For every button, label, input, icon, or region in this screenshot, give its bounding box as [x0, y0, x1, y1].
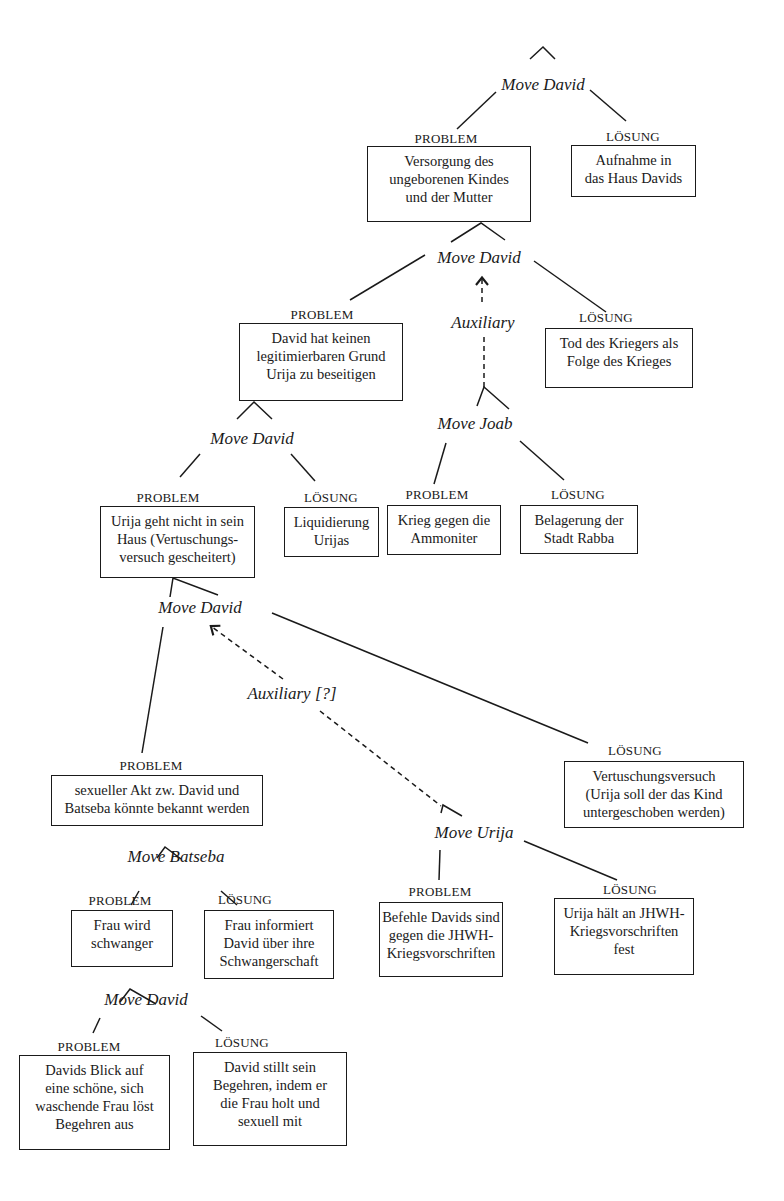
- problem-box-4: sexueller Akt zw. David und Batseba könn…: [51, 775, 263, 826]
- auxiliary-label-1: Auxiliary: [451, 313, 514, 333]
- move-david-3: Move David: [210, 429, 294, 449]
- move-joab: Move Joab: [437, 414, 512, 434]
- problem-1-line: Versorgung des: [368, 152, 530, 170]
- solution-4-line: (Urija soll der das Kind: [565, 785, 743, 803]
- move-david-5: Move David: [104, 990, 188, 1010]
- problem-label-4: PROBLEM: [120, 758, 183, 774]
- solution-batseba-line: Frau informiert: [205, 916, 333, 934]
- problem-5-line: waschende Frau löst: [20, 1097, 169, 1115]
- solution-box-4: Vertuschungsversuch (Urija soll der das …: [564, 761, 744, 828]
- solution-5-line: Begehren, indem er: [194, 1076, 346, 1094]
- move-batseba: Move Batseba: [128, 847, 225, 867]
- problem-label-urija: PROBLEM: [409, 884, 472, 900]
- problem-urija-line: Kriegsvorschriften: [380, 944, 502, 962]
- solution-box-urija: Urija hält an JHWH- Kriegsvorschriften f…: [554, 898, 694, 975]
- problem-urija-line: gegen die JHWH-: [380, 926, 502, 944]
- problem-batseba-line: Frau wird: [72, 916, 172, 934]
- solution-1-line: Aufnahme in: [572, 151, 695, 169]
- problem-label-joab: PROBLEM: [406, 487, 469, 503]
- solution-box-5: David stillt sein Begehren, indem er die…: [193, 1052, 347, 1146]
- solution-urija-line: fest: [555, 940, 693, 958]
- problem-box-5: Davids Blick auf eine schöne, sich wasch…: [19, 1055, 170, 1150]
- problem-3-line: Haus (Vertuschungs-: [101, 530, 254, 548]
- problem-2-line: legitimierbaren Grund: [240, 347, 402, 365]
- solution-4-line: untergeschoben werden): [565, 803, 743, 821]
- solution-5-line: die Frau holt und: [194, 1094, 346, 1112]
- problem-label-1: PROBLEM: [415, 131, 478, 147]
- solution-urija-line: Urija hält an JHWH-: [555, 904, 693, 922]
- move-david-root: Move David: [501, 75, 585, 95]
- problem-box-1: Versorgung des ungeborenen Kindes und de…: [367, 146, 531, 222]
- solution-5-line: sexuell mit: [194, 1112, 346, 1130]
- solution-label-5: LÖSUNG: [215, 1035, 269, 1051]
- solution-label-3: LÖSUNG: [304, 490, 358, 506]
- auxiliary-label-2: Auxiliary [?]: [247, 684, 336, 704]
- solution-joab-line: Stadt Rabba: [521, 529, 637, 547]
- solution-label-1: LÖSUNG: [606, 129, 660, 145]
- solution-label-batseba: LÖSUNG: [218, 892, 272, 908]
- solution-label-urija: LÖSUNG: [603, 882, 657, 898]
- solution-batseba-line: Schwangerschaft: [205, 952, 333, 970]
- problem-5-line: Begehren aus: [20, 1115, 169, 1133]
- problem-3-line: Urija geht nicht in sein: [101, 512, 254, 530]
- solution-box-batseba: Frau informiert David über ihre Schwange…: [204, 910, 334, 979]
- solution-3-line: Urijas: [285, 531, 378, 549]
- problem-urija-line: Befehle Davids sind: [380, 908, 502, 926]
- solution-5-line: David stillt sein: [194, 1058, 346, 1076]
- solution-label-joab: LÖSUNG: [551, 487, 605, 503]
- problem-2-line: David hat keinen: [240, 329, 402, 347]
- solution-2-line: Tod des Kriegers als: [546, 334, 692, 352]
- problem-5-line: Davids Blick auf: [20, 1061, 169, 1079]
- solution-4-line: Vertuschungsversuch: [565, 767, 743, 785]
- solution-3-line: Liquidierung: [285, 513, 378, 531]
- problem-label-5: PROBLEM: [58, 1039, 121, 1055]
- solution-batseba-line: David über ihre: [205, 934, 333, 952]
- problem-box-batseba: Frau wird schwanger: [71, 910, 173, 967]
- problem-4-line: Batseba könnte bekannt werden: [52, 799, 262, 817]
- problem-box-3: Urija geht nicht in sein Haus (Vertuschu…: [100, 506, 255, 578]
- solution-urija-line: Kriegsvorschriften: [555, 922, 693, 940]
- problem-joab-line: Krieg gegen die: [388, 511, 500, 529]
- problem-label-batseba: PROBLEM: [89, 893, 152, 909]
- problem-3-line: versuch gescheitert): [101, 548, 254, 566]
- problem-5-line: eine schöne, sich: [20, 1079, 169, 1097]
- solution-box-1: Aufnahme in das Haus Davids: [571, 145, 696, 197]
- solution-label-4: LÖSUNG: [608, 743, 662, 759]
- problem-4-line: sexueller Akt zw. David und: [52, 781, 262, 799]
- problem-box-joab: Krieg gegen die Ammoniter: [387, 505, 501, 555]
- solution-label-2: LÖSUNG: [579, 310, 633, 326]
- solution-box-joab: Belagerung der Stadt Rabba: [520, 505, 638, 554]
- solution-joab-line: Belagerung der: [521, 511, 637, 529]
- move-urija: Move Urija: [435, 823, 514, 843]
- solution-2-line: Folge des Krieges: [546, 352, 692, 370]
- problem-box-2: David hat keinen legitimierbaren Grund U…: [239, 323, 403, 401]
- solution-1-line: das Haus Davids: [572, 169, 695, 187]
- problem-joab-line: Ammoniter: [388, 529, 500, 547]
- move-david-4: Move David: [158, 598, 242, 618]
- move-david-2: Move David: [437, 248, 521, 268]
- solution-box-2: Tod des Kriegers als Folge des Krieges: [545, 328, 693, 388]
- problem-1-line: und der Mutter: [368, 188, 530, 206]
- problem-label-2: PROBLEM: [291, 307, 354, 323]
- problem-box-urija: Befehle Davids sind gegen die JHWH- Krie…: [379, 902, 503, 977]
- solution-box-3: Liquidierung Urijas: [284, 507, 379, 557]
- problem-batseba-line: schwanger: [72, 934, 172, 952]
- problem-1-line: ungeborenen Kindes: [368, 170, 530, 188]
- problem-2-line: Urija zu beseitigen: [240, 365, 402, 383]
- problem-label-3: PROBLEM: [137, 490, 200, 506]
